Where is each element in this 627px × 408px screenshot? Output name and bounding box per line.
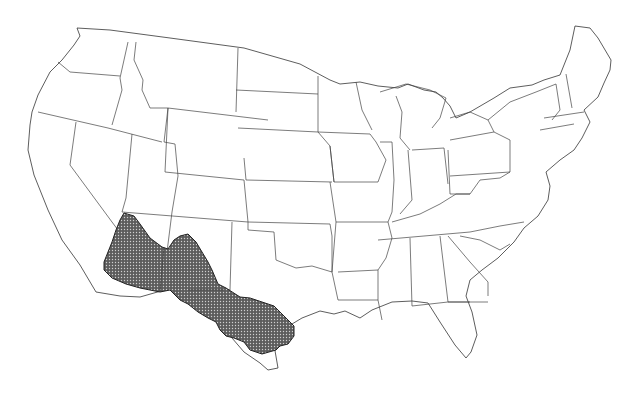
us-outline [28, 26, 611, 370]
us-map [0, 0, 627, 408]
